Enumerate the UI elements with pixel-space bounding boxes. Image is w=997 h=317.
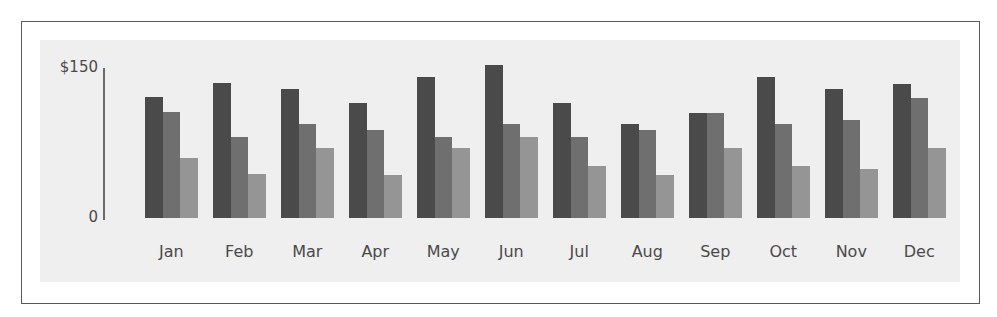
- bar-jul-series-1: [553, 103, 571, 218]
- x-label-jan: Jan: [141, 242, 201, 261]
- x-label-apr: Apr: [345, 242, 405, 261]
- bar-jul-series-2: [571, 137, 589, 218]
- bar-sep-series-2: [707, 113, 725, 218]
- bar-feb-series-3: [248, 174, 266, 218]
- x-label-aug: Aug: [617, 242, 677, 261]
- bar-apr-series-2: [367, 130, 385, 218]
- bar-oct-series-3: [792, 166, 810, 218]
- x-label-jul: Jul: [549, 242, 609, 261]
- bar-nov-series-3: [860, 169, 878, 218]
- bar-jul-series-3: [588, 166, 606, 218]
- bar-nov-series-1: [825, 89, 843, 218]
- bar-oct-series-1: [757, 77, 775, 218]
- bar-sep-series-3: [724, 148, 742, 218]
- bar-apr-series-1: [349, 103, 367, 218]
- y-axis-line: [103, 68, 105, 220]
- bar-sep-series-1: [689, 113, 707, 218]
- x-label-jun: Jun: [481, 242, 541, 261]
- x-label-oct: Oct: [753, 242, 813, 261]
- x-label-nov: Nov: [821, 242, 881, 261]
- bar-feb-series-1: [213, 83, 231, 218]
- bar-aug-series-2: [639, 130, 657, 218]
- bar-aug-series-3: [656, 175, 674, 218]
- x-label-mar: Mar: [277, 242, 337, 261]
- x-label-dec: Dec: [889, 242, 949, 261]
- bar-nov-series-2: [843, 120, 861, 218]
- bar-jun-series-1: [485, 65, 503, 218]
- bar-oct-series-2: [775, 124, 793, 218]
- bar-aug-series-1: [621, 124, 639, 218]
- bar-dec-series-3: [928, 148, 946, 218]
- bar-may-series-1: [417, 77, 435, 218]
- bar-jun-series-3: [520, 137, 538, 218]
- bar-mar-series-3: [316, 148, 334, 218]
- y-tick-zero: 0: [52, 208, 98, 226]
- bar-mar-series-1: [281, 89, 299, 218]
- x-label-may: May: [413, 242, 473, 261]
- bar-may-series-3: [452, 148, 470, 218]
- bar-dec-series-2: [911, 98, 929, 218]
- bar-jan-series-3: [180, 158, 198, 218]
- bar-jan-series-2: [163, 112, 181, 218]
- bar-dec-series-1: [893, 84, 911, 218]
- bar-feb-series-2: [231, 137, 249, 218]
- bar-apr-series-3: [384, 175, 402, 218]
- bar-may-series-2: [435, 137, 453, 218]
- bar-jan-series-1: [145, 97, 163, 218]
- y-tick-max: $150: [52, 58, 98, 76]
- x-label-sep: Sep: [685, 242, 745, 261]
- x-label-feb: Feb: [209, 242, 269, 261]
- bar-mar-series-2: [299, 124, 317, 218]
- bar-jun-series-2: [503, 124, 521, 218]
